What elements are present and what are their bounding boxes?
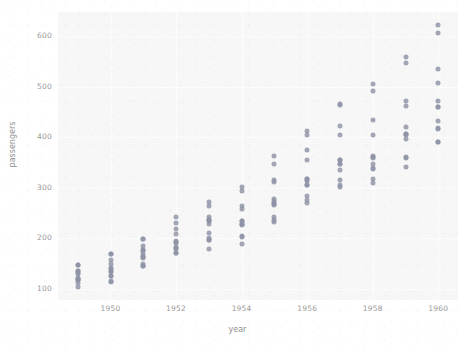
data-point [108, 257, 113, 262]
data-point [370, 133, 375, 138]
data-point [338, 183, 343, 188]
data-point [370, 117, 375, 122]
data-point [174, 250, 179, 255]
data-point [141, 244, 146, 249]
data-point [370, 89, 375, 94]
data-point [436, 125, 441, 130]
data-point [370, 82, 375, 87]
scatter-plot-figure: 100200300400500600 195019521954195619581… [0, 0, 467, 350]
y-axis-tick-label: 300 [37, 183, 52, 192]
data-point [75, 284, 80, 289]
data-point [305, 148, 310, 153]
data-point [272, 217, 277, 222]
x-axis-tick-label: 1960 [428, 304, 448, 313]
data-point [403, 55, 408, 60]
data-point [174, 231, 179, 236]
data-point [305, 200, 310, 205]
gridline-vertical [176, 12, 177, 300]
data-point [370, 167, 375, 172]
data-point [338, 133, 343, 138]
data-point [174, 239, 179, 244]
data-point [370, 161, 375, 166]
data-point [206, 235, 211, 240]
data-point [206, 246, 211, 251]
data-point [370, 156, 375, 161]
x-axis-tick-label: 1958 [363, 304, 383, 313]
data-point [174, 221, 179, 226]
data-point [436, 67, 441, 72]
y-axis-tick-label: 100 [37, 284, 52, 293]
data-point [75, 262, 80, 267]
data-point [305, 182, 310, 187]
x-axis-tick-label: 1950 [101, 304, 121, 313]
data-point [370, 180, 375, 185]
data-point [206, 200, 211, 205]
data-point [239, 189, 244, 194]
gridline-vertical [438, 12, 439, 300]
data-point [436, 23, 441, 28]
data-point [436, 31, 441, 36]
gridline-horizontal [58, 36, 458, 37]
data-point [272, 162, 277, 167]
gridline-horizontal [58, 137, 458, 138]
data-point [239, 206, 244, 211]
gridline-horizontal [58, 238, 458, 239]
x-axis-tick-label: 1952 [166, 304, 186, 313]
data-point [75, 268, 80, 273]
x-axis-title: year [0, 325, 467, 334]
gridline-vertical [307, 12, 308, 300]
data-point [436, 80, 441, 85]
data-point [272, 153, 277, 158]
data-point [108, 279, 113, 284]
data-point [436, 98, 441, 103]
data-point [141, 236, 146, 241]
data-point [403, 164, 408, 169]
data-point [174, 215, 179, 220]
y-axis-tick-label: 500 [37, 82, 52, 91]
y-axis-title-text: passengers [8, 122, 17, 168]
data-point [239, 234, 244, 239]
data-point [338, 124, 343, 129]
data-point [403, 125, 408, 130]
data-point [305, 176, 310, 181]
x-axis-tick-label: 1954 [232, 304, 252, 313]
data-point [305, 158, 310, 163]
gridline-horizontal [58, 87, 458, 88]
data-point [436, 104, 441, 109]
y-axis-title: passengers [8, 105, 17, 185]
y-axis-tick-label: 400 [37, 132, 52, 141]
data-point [272, 196, 277, 201]
x-axis-tick-labels: 195019521954195619581960 [0, 304, 467, 318]
data-point [403, 103, 408, 108]
gridline-vertical [242, 12, 243, 300]
data-point [108, 251, 113, 256]
x-axis-title-text: year [229, 325, 247, 334]
data-point [403, 154, 408, 159]
data-point [436, 140, 441, 145]
gridline-horizontal [58, 289, 458, 290]
data-point [338, 162, 343, 167]
data-point [206, 217, 211, 222]
data-point [305, 132, 310, 137]
gridline-horizontal [58, 188, 458, 189]
y-axis-tick-label: 600 [37, 31, 52, 40]
data-point [338, 167, 343, 172]
data-point [403, 60, 408, 65]
data-point [403, 132, 408, 137]
data-point [272, 179, 277, 184]
plot-area [58, 12, 458, 300]
data-point [108, 266, 113, 271]
data-point [75, 277, 80, 282]
y-axis-tick-label: 200 [37, 233, 52, 242]
data-point [403, 137, 408, 142]
data-point [239, 242, 244, 247]
data-point [141, 263, 146, 268]
data-point [338, 101, 343, 106]
data-point [239, 221, 244, 226]
data-point [141, 253, 146, 258]
x-axis-tick-label: 1956 [297, 304, 317, 313]
data-point [436, 119, 441, 124]
